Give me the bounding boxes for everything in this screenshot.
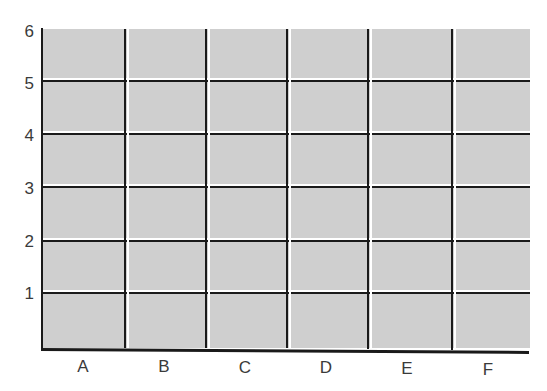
y-label-3: 3 — [14, 180, 34, 197]
col-highlight-e — [370, 29, 372, 348]
x-label-f: F — [478, 361, 498, 378]
col-highlight-d — [289, 29, 291, 348]
col-highlight-f — [454, 29, 456, 348]
x-label-b: B — [154, 358, 174, 375]
col-line-f — [451, 29, 453, 350]
col-highlight-b — [127, 29, 129, 348]
y-label-5: 5 — [14, 75, 34, 92]
col-line-b — [124, 29, 126, 348]
y-label-1: 1 — [14, 285, 34, 302]
x-label-c: C — [235, 359, 255, 376]
grid-diagram: 6 5 4 3 2 1 A B C D E F — [0, 0, 547, 391]
col-line-d — [286, 29, 288, 348]
x-label-e: E — [397, 360, 417, 377]
y-axis-line — [41, 28, 43, 350]
x-label-d: D — [316, 359, 336, 376]
col-line-e — [367, 29, 369, 349]
y-label-4: 4 — [14, 127, 34, 144]
y-label-6: 6 — [14, 23, 34, 40]
y-label-2: 2 — [14, 233, 34, 250]
col-line-c — [205, 29, 207, 348]
col-highlight-c — [208, 29, 210, 348]
x-axis-line — [41, 348, 529, 354]
x-label-a: A — [73, 358, 93, 375]
